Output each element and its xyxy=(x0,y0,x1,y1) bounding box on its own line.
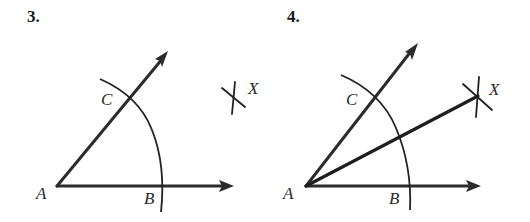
ray-ac xyxy=(306,50,412,186)
point-label-x: X xyxy=(247,79,259,98)
panel-number: 4. xyxy=(287,7,300,26)
panel-number: 3. xyxy=(27,7,40,26)
point-label-c: C xyxy=(346,90,358,109)
panel-3: 3. A B C X xyxy=(27,7,259,212)
panel-4: 4. A B C X xyxy=(282,7,500,210)
point-label-a: A xyxy=(35,184,47,203)
point-label-a: A xyxy=(282,184,294,203)
point-label-b: B xyxy=(389,189,400,208)
ray-ac xyxy=(57,58,163,186)
bisector-ray-ax xyxy=(306,96,478,186)
angle-bisector-construction-figure: 3. A B C X 4. A B C X xyxy=(0,0,530,222)
point-label-x: X xyxy=(488,80,500,99)
point-label-b: B xyxy=(144,189,155,208)
point-label-c: C xyxy=(101,90,113,109)
